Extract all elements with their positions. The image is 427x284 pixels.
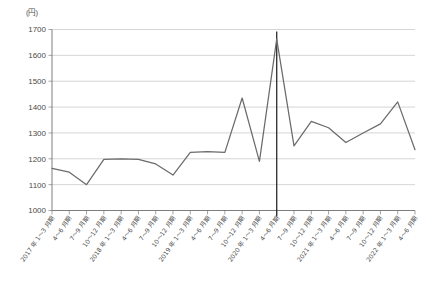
- x-tick-label: 2021 年 1～3 月期: [295, 215, 332, 263]
- x-tick-label: 2019 年 1～3 月期: [157, 215, 194, 263]
- x-axis-tick-labels: 2017 年 1～3 月期4～6 月期7～9 月期10～12 月期2018 年 …: [19, 215, 419, 263]
- y-axis-ticks: 10001100120013001400150016001700: [28, 25, 52, 215]
- x-tick-label: 2017 年 1～3 月期: [19, 215, 56, 263]
- y-tick-label: 1500: [28, 77, 46, 86]
- y-tick-label: 1400: [28, 103, 46, 112]
- y-tick-label: 1200: [28, 155, 46, 164]
- x-tick-label: 2022 年 1～3 月期: [365, 215, 402, 263]
- y-tick-label: 1700: [28, 25, 46, 34]
- chart-plot-area: 10001100120013001400150016001700 2017 年 …: [0, 0, 427, 284]
- x-tick-label: 2020 年 1～3 月期: [226, 215, 263, 263]
- x-axis-ticks: [52, 211, 415, 215]
- y-tick-label: 1000: [28, 206, 46, 215]
- gridlines: [52, 30, 415, 185]
- x-tick-label: 2018 年 1～3 月期: [88, 215, 125, 263]
- y-tick-label: 1100: [29, 181, 47, 190]
- line-chart: (円) 10001100120013001400150016001700 201…: [0, 0, 427, 284]
- y-tick-label: 1300: [28, 129, 46, 138]
- data-series-line: [52, 39, 415, 185]
- y-tick-label: 1600: [28, 51, 46, 60]
